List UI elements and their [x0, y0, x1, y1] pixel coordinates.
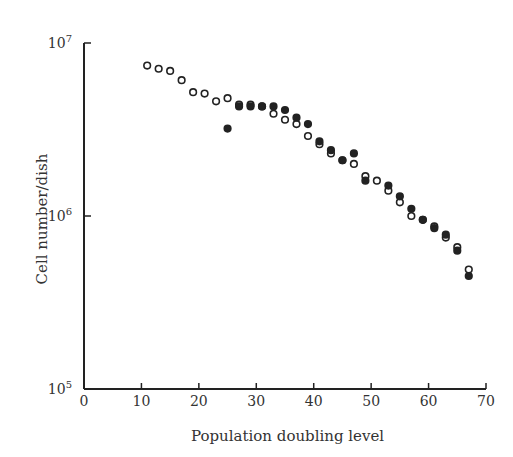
filled-data-point: [293, 114, 300, 121]
open-data-point: [167, 68, 174, 75]
open-data-point: [305, 133, 312, 140]
filled-data-point: [397, 193, 404, 200]
open-data-point: [282, 116, 289, 123]
filled-data-point: [328, 147, 335, 154]
filled-data-point: [385, 182, 392, 189]
filled-data-point: [224, 125, 231, 132]
filled-data-point: [431, 225, 438, 232]
x-tick-label: 70: [477, 393, 495, 409]
filled-data-point: [454, 247, 461, 254]
x-tick-label: 0: [80, 393, 89, 409]
x-tick-label: 40: [305, 393, 323, 409]
x-tick-label: 60: [420, 393, 438, 409]
open-data-point: [374, 177, 381, 184]
y-tick-label: 107: [48, 33, 72, 51]
filled-data-point: [236, 103, 243, 110]
open-data-point: [408, 213, 415, 220]
y-tick-label: 106: [48, 206, 72, 224]
chart: 010203040506070105106107 Population doub…: [0, 0, 513, 457]
open-data-point: [190, 89, 197, 96]
filled-data-point: [247, 103, 254, 110]
open-data-point: [270, 110, 277, 117]
plot-area: 010203040506070105106107: [0, 0, 513, 457]
filled-data-point: [339, 157, 346, 164]
x-axis-label: Population doubling level: [191, 427, 384, 445]
filled-data-point: [465, 273, 472, 280]
filled-data-point: [259, 103, 266, 110]
filled-data-point: [420, 217, 427, 224]
open-data-point: [351, 161, 358, 168]
filled-data-point: [270, 103, 277, 110]
x-tick-label: 10: [133, 393, 151, 409]
x-tick-label: 30: [247, 393, 265, 409]
y-axis-label: Cell number/dish: [33, 139, 51, 299]
x-tick-label: 50: [362, 393, 380, 409]
filled-data-point: [316, 138, 323, 145]
filled-data-point: [443, 231, 450, 238]
open-data-point: [224, 95, 231, 102]
filled-data-point: [305, 121, 312, 128]
filled-data-point: [408, 206, 415, 213]
open-data-point: [178, 77, 185, 84]
open-data-point: [155, 65, 162, 72]
open-data-point: [213, 98, 220, 105]
open-data-point: [144, 62, 151, 69]
filled-data-point: [282, 107, 289, 114]
open-data-point: [201, 90, 208, 97]
x-tick-label: 20: [190, 393, 208, 409]
y-tick-label: 105: [48, 379, 72, 397]
filled-data-point: [351, 150, 358, 157]
filled-data-point: [362, 177, 369, 184]
